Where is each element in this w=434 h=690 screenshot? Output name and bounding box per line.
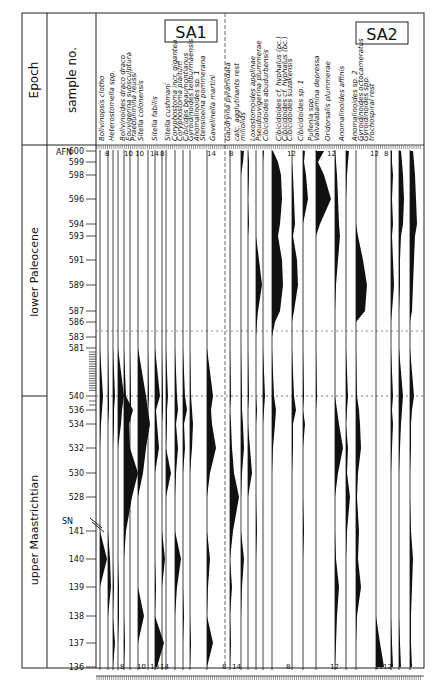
scale-label: 8 xyxy=(229,150,233,158)
abundance-kite xyxy=(303,151,308,667)
sample-label: 534 xyxy=(69,420,84,429)
sample-label: 589 xyxy=(69,281,84,290)
sample-label: 583 xyxy=(69,333,84,342)
species-label: Oridorsalis plummerae xyxy=(324,61,332,141)
scale-label: 10 xyxy=(137,663,146,671)
abundance-kite xyxy=(391,151,394,667)
sample-label: 136 xyxy=(69,663,84,672)
scale-label: 8 xyxy=(286,663,290,671)
abundance-kite xyxy=(162,151,165,667)
sample-label: 586 xyxy=(69,318,84,327)
sample-label: 140 xyxy=(69,555,84,564)
sample-label: 587 xyxy=(69,307,84,316)
sample-header: sample no. xyxy=(65,47,79,113)
scale-label: 14 xyxy=(150,150,159,158)
scale-ruler-top xyxy=(96,145,424,149)
abundance-kite xyxy=(183,151,187,667)
abundance-kite xyxy=(175,151,181,667)
species-label: Anomalinoides affinis xyxy=(338,66,346,142)
sample-label: 528 xyxy=(69,493,84,502)
sample-label: 532 xyxy=(69,444,84,453)
sample-label: 137 xyxy=(69,639,84,648)
abundance-kites xyxy=(100,150,417,670)
species-label: Stensioeina pommerana xyxy=(199,55,207,141)
species-label: Sitella fabilis xyxy=(151,96,159,141)
sample-label: 530 xyxy=(69,469,84,478)
range-chart: Epoch sample no. SA1 SA2 AFN lower Paleo… xyxy=(0,0,434,690)
sample-label: 139 xyxy=(69,583,84,592)
sample-label: 599 xyxy=(69,158,84,167)
scale-ruler-bottom xyxy=(96,676,424,680)
species-label: trochospiral rest xyxy=(368,83,376,141)
sample-label: 591 xyxy=(69,256,84,265)
abundance-kite xyxy=(230,151,239,667)
sample-label: 594 xyxy=(69,220,84,229)
abundance-kite xyxy=(399,151,404,667)
sample-label: 600 xyxy=(69,147,84,156)
scale-label: 8 xyxy=(120,663,124,671)
species-label: Gavelinella martini xyxy=(209,75,217,141)
abundance-kite xyxy=(356,151,367,667)
scale-label: 8 xyxy=(384,150,388,158)
sample-label: 598 xyxy=(69,171,84,180)
abundance-kite xyxy=(190,151,193,667)
abundance-kite xyxy=(410,151,417,667)
scale-label: 12 xyxy=(383,663,392,671)
species-label: Gaudryina pyramidata xyxy=(224,62,232,141)
abundance-kite xyxy=(316,151,331,667)
abundance-kite xyxy=(207,151,216,667)
sa2-label: SA2 xyxy=(366,25,398,44)
scale-label: 14 xyxy=(207,150,216,158)
species-labels: Bolivinopsis clothoHeterostomella spp.Bo… xyxy=(98,36,376,142)
species-label: Cibicidoides abudurbensis xyxy=(262,49,270,141)
axis-break-icon xyxy=(90,518,104,532)
epoch-header: Epoch xyxy=(27,62,41,99)
scale-label: 10 xyxy=(150,663,159,671)
sample-label: 138 xyxy=(69,612,84,621)
abundance-kite xyxy=(335,151,343,667)
scale-label: 12 xyxy=(330,663,339,671)
sample-label: 141 xyxy=(69,527,84,536)
scale-label: 10 xyxy=(135,150,144,158)
sample-label: 540 xyxy=(69,392,84,401)
sample-label: 596 xyxy=(69,195,84,204)
sample-axis: 6005995985965945935915895875865835815405… xyxy=(69,147,96,672)
species-label: Cibicidoides sp. 1 xyxy=(297,80,305,141)
abundance-kite xyxy=(241,151,244,667)
scale-label: 12 xyxy=(327,150,336,158)
scale-label: 12 xyxy=(287,150,296,158)
abundance-kite xyxy=(118,151,124,667)
species-label: miliolids xyxy=(239,112,247,141)
abundance-kite xyxy=(248,151,252,667)
abundance-kite xyxy=(272,151,283,667)
abundance-kite xyxy=(346,151,350,667)
scale-label: 14 xyxy=(232,663,241,671)
abundance-kite xyxy=(166,151,171,667)
epoch-lower-paleocene: lower Paleocene xyxy=(28,227,41,317)
scale-label: 14 xyxy=(160,663,169,671)
abundance-kite xyxy=(256,151,262,667)
species-label: Bolivinopsis clotho xyxy=(98,76,106,141)
sample-label: 593 xyxy=(69,232,84,241)
species-label: Heterostomella spp. xyxy=(108,70,116,141)
sample-label: 536 xyxy=(69,406,84,415)
scale-label: 8 xyxy=(160,150,164,158)
species-label: Cibicidoides suzakensis xyxy=(286,58,294,141)
species-label: Valvalabamina depressa xyxy=(313,55,321,141)
sample-label: 581 xyxy=(69,344,84,353)
abundance-kite xyxy=(292,151,298,667)
scale-label: 12 xyxy=(370,150,379,158)
species-label: Sitella colonensis xyxy=(137,80,145,141)
abundance-kite xyxy=(100,151,107,667)
epoch-upper-maastrichtian: upper Maastrichtian xyxy=(28,475,41,585)
abundance-kite xyxy=(376,151,384,667)
abundance-kite xyxy=(108,151,111,667)
sn-label: SN xyxy=(62,517,73,526)
scale-label: 8 xyxy=(105,150,109,158)
scale-label: 10 xyxy=(124,150,133,158)
scale-label: 8 xyxy=(222,663,226,671)
